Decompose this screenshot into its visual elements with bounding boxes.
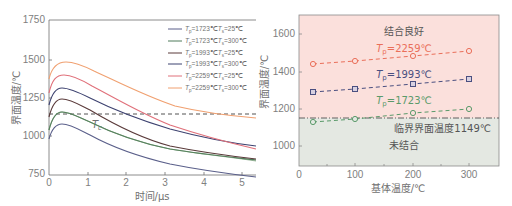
- x-axis-label: 基体温度/℃: [371, 182, 426, 194]
- svg-text:Tp=1993℃Ts=25℃: Tp=1993℃Ts=25℃: [185, 49, 243, 58]
- curve-1723-25: [49, 124, 256, 177]
- legend-item: Tp=2259℃Ts=25℃: [168, 72, 243, 81]
- left-chart: 1750 1500 1250 1000 750 0 1 2 3 4 5 时间/μ…: [10, 14, 256, 202]
- legend-item: Tp=1993℃Ts=25℃: [168, 49, 243, 58]
- y-tick: 1200: [273, 103, 296, 114]
- x-axis-label: 时间/μs: [135, 190, 170, 202]
- critical-temp-label: 临界界面温度1149℃: [394, 122, 491, 134]
- legend-item: Tp=1993℃Ts=300℃: [168, 60, 247, 69]
- x-tick: 0: [296, 169, 302, 180]
- x-tick: 1: [85, 177, 91, 188]
- svg-text:Tp=1993℃Ts=300℃: Tp=1993℃Ts=300℃: [185, 60, 247, 69]
- right-chart: 1600 1400 1200 1000 0 100 200 300 基体温度/℃…: [258, 15, 499, 194]
- legend-item: Tp=2259℃Ts=300℃: [168, 84, 247, 93]
- svg-text:Tp=1723℃Ts=300℃: Tp=1723℃Ts=300℃: [185, 37, 247, 46]
- x-tick: 300: [461, 169, 478, 180]
- figure: 1750 1500 1250 1000 750 0 1 2 3 4 5 时间/μ…: [0, 0, 512, 206]
- svg-text:Tp=2259℃Ts=300℃: Tp=2259℃Ts=300℃: [185, 84, 247, 93]
- y-tick: 1000: [273, 140, 296, 151]
- y-tick: 1750: [23, 14, 46, 25]
- y-tick: 1600: [273, 28, 296, 39]
- y-tick: 1000: [23, 130, 46, 141]
- legend: Tp=1723℃Ts=25℃ Tp=1723℃Ts=300℃ Tp=1993℃T…: [168, 25, 247, 93]
- y-tick: 750: [28, 168, 45, 179]
- x-tick: 2: [123, 177, 129, 188]
- svg-text:Tp=1723℃Ts=25℃: Tp=1723℃Ts=25℃: [185, 25, 243, 34]
- x-tick: 200: [405, 169, 422, 180]
- legend-item: Tp=1723℃Ts=300℃: [168, 37, 247, 46]
- curve-1723-300: [49, 112, 256, 160]
- no-bond-label: 未结合: [389, 139, 419, 151]
- curve-1723-300-green: [49, 112, 256, 161]
- good-bond-label: 结合良好: [384, 25, 424, 37]
- y-axis-label: 界面温度/℃: [10, 71, 22, 126]
- x-tick: 4: [201, 177, 207, 188]
- curve-1993-25: [49, 99, 256, 159]
- svg-text:Tp=2259℃Ts=25℃: Tp=2259℃Ts=25℃: [185, 72, 243, 81]
- x-tick: 100: [347, 169, 364, 180]
- legend-item: Tp=1723℃Ts=25℃: [168, 25, 243, 34]
- y-axis-label: 界面温度/℃: [258, 55, 270, 110]
- x-tick: 0: [46, 177, 52, 188]
- y-tick: 1400: [273, 66, 296, 77]
- x-tick: 5: [239, 177, 245, 188]
- y-tick: 1500: [23, 54, 46, 65]
- y-tick: 1250: [23, 92, 46, 103]
- x-tick: 3: [162, 177, 168, 188]
